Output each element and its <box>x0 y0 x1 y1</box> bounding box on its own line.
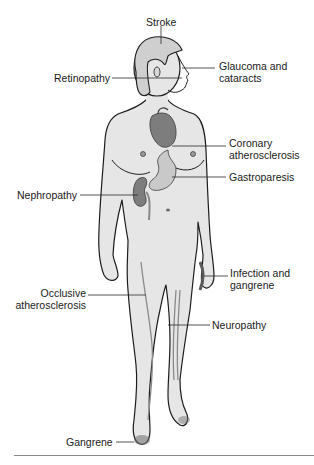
label-nephropathy: Nephropathy <box>17 189 77 201</box>
label-coronary-atherosclerosis: Coronary atherosclerosis <box>229 137 300 161</box>
foot-gangrene-shading <box>134 435 150 445</box>
ear <box>154 67 160 77</box>
label-neuropathy: Neuropathy <box>212 319 266 331</box>
label-gangrene: Gangrene <box>66 436 113 448</box>
label-occlusive-line1: Occlusive <box>14 287 86 299</box>
label-retinopathy: Retinopathy <box>54 72 110 84</box>
navel <box>166 209 170 212</box>
bottom-divider <box>14 455 314 456</box>
diabetes-complications-diagram: Stroke Retinopathy Glaucoma and cataract… <box>0 0 314 465</box>
body-silhouette <box>99 40 214 444</box>
label-coronary-line1: Coronary <box>229 137 300 149</box>
label-glaucoma-line1: Glaucoma and <box>219 60 287 72</box>
label-infection-gangrene: Infection and gangrene <box>230 267 290 291</box>
foot-shading-right <box>178 416 190 424</box>
label-infection-line2: gangrene <box>230 279 290 291</box>
label-glaucoma-cataracts: Glaucoma and cataracts <box>219 60 287 84</box>
nipple-right <box>191 152 196 157</box>
nipple-left <box>141 152 146 157</box>
label-coronary-line2: atherosclerosis <box>229 149 300 161</box>
label-occlusive-atherosclerosis: Occlusive atherosclerosis <box>14 287 86 311</box>
label-stroke: Stroke <box>146 16 176 28</box>
label-gastroparesis: Gastroparesis <box>229 171 294 183</box>
label-infection-line1: Infection and <box>230 267 290 279</box>
label-occlusive-line2: atherosclerosis <box>14 299 86 311</box>
label-glaucoma-line2: cataracts <box>219 72 287 84</box>
